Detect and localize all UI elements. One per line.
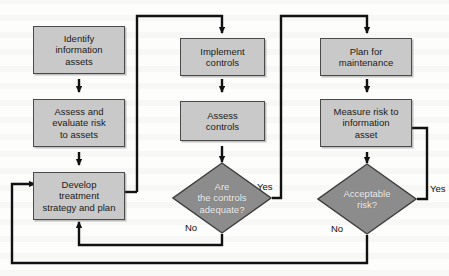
node-measure-risk-information-asset[interactable]: Measure risk toinformationasset bbox=[320, 99, 412, 147]
edge-label-controls-no: No bbox=[185, 222, 197, 233]
node-label: Assess andevaluate riskto assets bbox=[52, 106, 105, 141]
node-label: Developtreatmentstrategy and plan bbox=[43, 179, 116, 214]
node-implement-controls[interactable]: Implementcontrols bbox=[180, 38, 265, 76]
flowchart-canvas: Identifyinformationassets Assess andeval… bbox=[0, 0, 449, 276]
node-label: Assesscontrols bbox=[206, 110, 239, 133]
edge-label-risk-yes: Yes bbox=[430, 183, 446, 194]
node-label: Implementcontrols bbox=[200, 46, 244, 69]
node-label: Arethe controlsadequate? bbox=[183, 181, 261, 216]
node-develop-treatment-strategy[interactable]: Developtreatmentstrategy and plan bbox=[33, 172, 125, 220]
node-label: Plan formaintenance bbox=[339, 46, 393, 69]
node-identify-information-assets[interactable]: Identifyinformationassets bbox=[33, 26, 125, 74]
node-assess-controls[interactable]: Assesscontrols bbox=[180, 101, 265, 141]
node-label: Identifyinformationassets bbox=[56, 33, 103, 68]
node-label: Acceptablerisk? bbox=[328, 188, 406, 211]
edge-label-risk-no: No bbox=[331, 223, 343, 234]
node-plan-for-maintenance[interactable]: Plan formaintenance bbox=[320, 38, 412, 76]
node-assess-evaluate-risk[interactable]: Assess andevaluate riskto assets bbox=[33, 99, 125, 147]
node-label: Measure risk toinformationasset bbox=[334, 106, 399, 141]
